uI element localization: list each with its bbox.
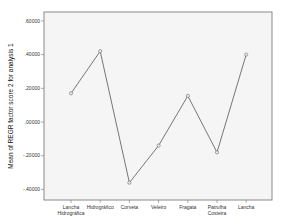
plot-area [44,12,272,200]
data-point-marker [128,181,131,184]
data-point-marker [69,92,72,95]
x-tick-label: Lancha [238,204,255,210]
x-tick-label: Corveta [121,204,139,210]
data-point-marker [245,53,248,56]
y-tick-label: .60000 [25,18,41,24]
y-tick-label: .20000 [25,85,41,91]
line-chart: .60000.40000.20000.00000-.20000-.40000 L… [0,0,284,224]
data-point-marker [215,151,218,154]
data-point-marker [186,94,189,97]
x-tick-label: Hidrográfico [87,204,114,210]
y-axis: .60000.40000.20000.00000-.20000-.40000 [23,18,44,193]
y-axis-title: Mean of REGR factor score 2 for analysis… [7,43,15,169]
y-tick-label: .00000 [25,119,41,125]
data-point-marker [99,50,102,53]
data-point-marker [157,144,160,147]
x-tick-label: Costeira [208,210,227,216]
x-tick-label: Veleiro [151,204,167,210]
x-tick-label: Hidrográfica [58,210,85,216]
x-axis: LanchaHidrográficaHidrográficoCorvetaVel… [58,200,255,216]
x-tick-label: Fragata [179,204,196,210]
y-tick-label: .40000 [25,51,41,57]
y-tick-label: -.20000 [23,152,40,158]
y-tick-label: -.40000 [23,186,40,192]
